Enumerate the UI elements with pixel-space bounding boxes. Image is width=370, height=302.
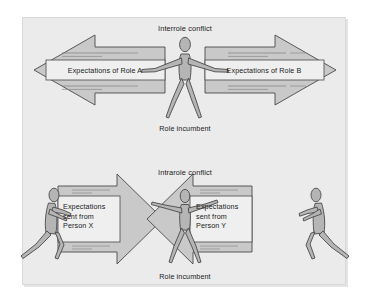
person-x-line-1: Expectations (63, 202, 119, 212)
person-y-line-2: sent from (196, 212, 252, 222)
person-y-expectations-label: Expectations sent from Person Y (196, 202, 252, 231)
person-y-pushing-figure (299, 188, 349, 259)
person-x-expectations-label: Expectations sent from Person X (63, 202, 119, 231)
person-y-line-3: Person Y (196, 221, 252, 231)
person-y-line-1: Expectations (196, 202, 252, 212)
right-role-expectations-label: Expectations of Role B (227, 66, 302, 76)
diagram-graphics (0, 0, 370, 302)
figure-canvas: Interrole conflict Expectations of Role … (0, 0, 370, 302)
person-x-line-2: sent from (63, 212, 119, 222)
person-x-line-3: Person X (63, 221, 119, 231)
left-role-expectations-label: Expectations of Role A (68, 66, 143, 76)
interrole-conflict-title: Interrole conflict (158, 24, 212, 34)
intrarole-conflict-title: Intrarole conflict (158, 168, 212, 178)
role-incumbent-caption-bottom: Role incumbent (159, 272, 210, 282)
role-incumbent-caption-top: Role incumbent (159, 124, 210, 134)
